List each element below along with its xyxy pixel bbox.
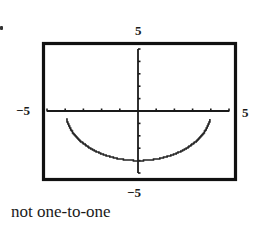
ymin-label: −5 xyxy=(127,186,141,199)
figure-caption: not one-to-one xyxy=(11,203,111,220)
graph-figure: 5 −5 −5 5 not one-to-one xyxy=(0,0,255,226)
ymax-label: 5 xyxy=(135,24,142,37)
xmax-label: 5 xyxy=(242,106,249,119)
axes xyxy=(47,49,229,173)
xmin-label: −5 xyxy=(16,104,30,117)
